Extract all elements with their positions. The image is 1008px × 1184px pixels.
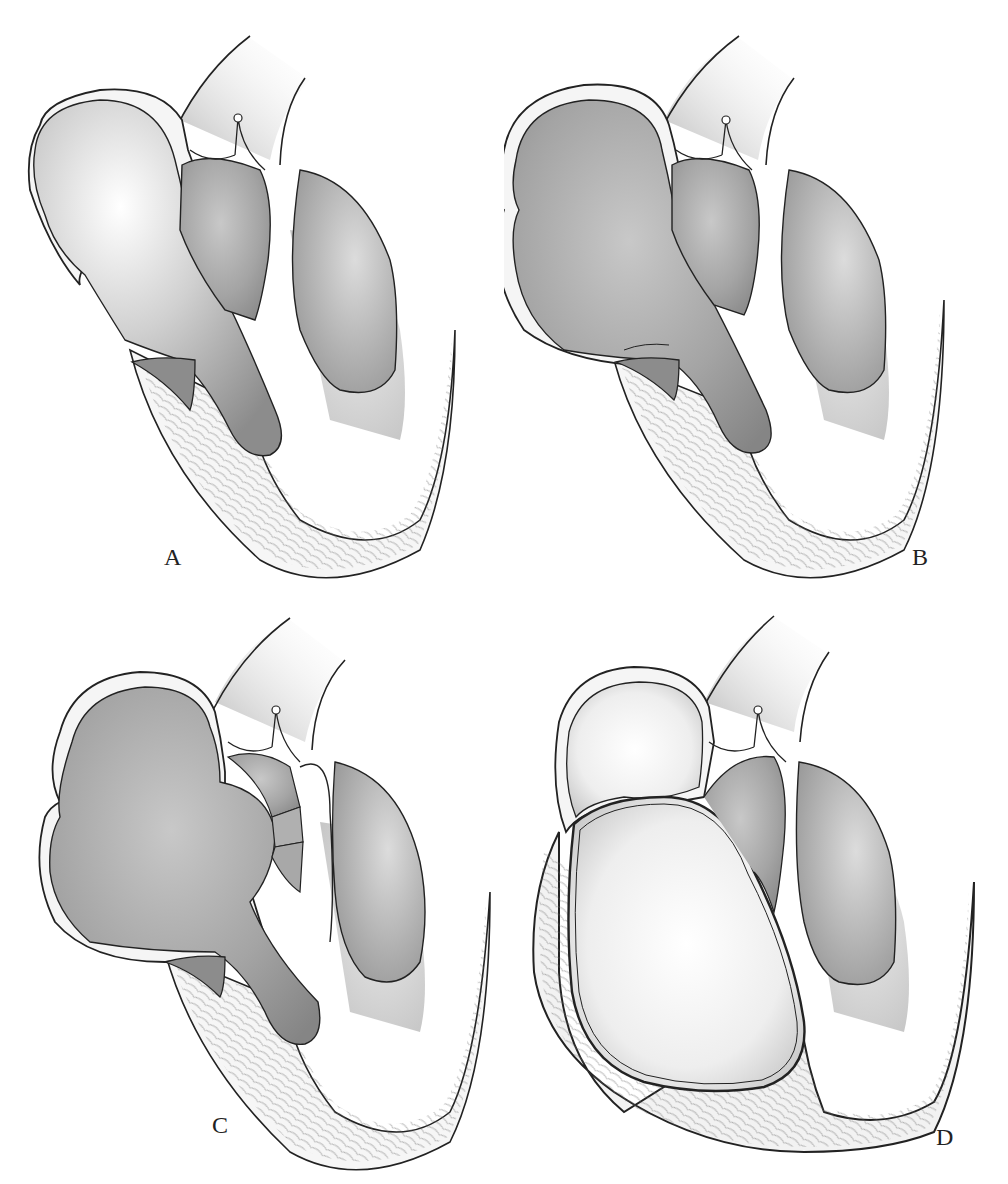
panel-a: A	[0, 0, 504, 592]
heart-illustration-d	[504, 592, 1008, 1184]
panel-b: B	[504, 0, 1008, 592]
panel-d: D	[504, 592, 1008, 1184]
panel-label-d: D	[936, 1124, 953, 1151]
panel-c: C	[0, 592, 504, 1184]
heart-illustration-b	[504, 0, 1008, 592]
panel-label-a: A	[164, 544, 181, 571]
panel-label-c: C	[212, 1112, 228, 1139]
panel-label-b: B	[912, 544, 928, 571]
heart-illustration-c	[0, 592, 504, 1184]
heart-illustration-a	[0, 0, 504, 592]
